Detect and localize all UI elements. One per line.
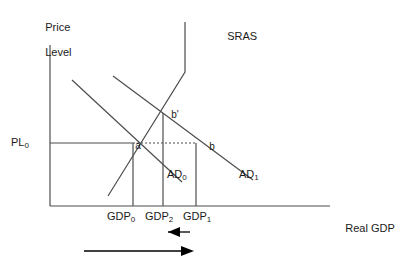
ad1-curve-label: AD1 xyxy=(239,168,259,183)
point-bprime-text: b' xyxy=(171,109,178,120)
x-tick-label-gdp0: GDP0 xyxy=(107,210,135,225)
sras-curve-label: SRAS xyxy=(215,17,257,55)
point-label-a: a xyxy=(124,127,141,165)
x-axis-title: Real GDP xyxy=(333,209,395,247)
gdp1-subscript: 1 xyxy=(207,215,211,224)
point-label-b: b xyxy=(198,128,215,166)
gdp1-base-text: GDP xyxy=(183,210,207,222)
sras-label-text: SRAS xyxy=(227,30,257,42)
gdp2-subscript: 2 xyxy=(169,215,173,224)
y-axis-title-line2: Level xyxy=(45,46,71,58)
pl0-subscript: 0 xyxy=(24,141,28,150)
x-axis-title-text: Real GDP xyxy=(345,222,395,234)
macroeconomic-ad-sras-diagram: Price Level Real GDP PL0 SRAS AD0 AD1 a … xyxy=(0,0,407,269)
ad1-base-text: AD xyxy=(239,168,254,180)
x-tick-label-gdp1: GDP1 xyxy=(183,210,211,225)
ad1-subscript: 1 xyxy=(254,173,258,182)
point-a-text: a xyxy=(135,140,141,151)
ad0-subscript: 0 xyxy=(182,173,186,182)
ad0-curve-label: AD0 xyxy=(167,168,187,183)
gdp0-subscript: 0 xyxy=(131,215,135,224)
arrow-right xyxy=(84,246,194,256)
gdp0-base-text: GDP xyxy=(107,210,131,222)
point-label-b-prime: b' xyxy=(160,96,179,134)
gdp2-base-text: GDP xyxy=(145,210,169,222)
x-tick-label-gdp2: GDP2 xyxy=(145,210,173,225)
arrow-left xyxy=(168,227,190,237)
pl0-base-text: PL xyxy=(11,136,24,148)
y-tick-label-pl0: PL0 xyxy=(11,136,29,151)
y-axis-title: Price Level xyxy=(33,8,93,71)
ad0-base-text: AD xyxy=(167,168,182,180)
point-b-text: b xyxy=(209,141,215,152)
y-axis-title-line1: Price xyxy=(45,21,70,33)
